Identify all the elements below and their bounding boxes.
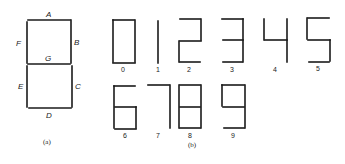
digit-1: 1 — [156, 21, 160, 73]
label-c: C — [75, 82, 81, 91]
digit-8: 8 — [179, 85, 201, 139]
digit-label-9: 9 — [231, 132, 235, 139]
label-e: E — [18, 82, 24, 91]
panel-b-digits: 0 1 2 3 4 — [113, 18, 330, 149]
digit-5: 5 — [307, 18, 330, 72]
digit-4: 4 — [264, 19, 287, 73]
seven-segment-figure: A F B G E C D (a) 0 1 2 — [0, 0, 345, 164]
label-d: D — [46, 111, 52, 120]
digit-label-5: 5 — [316, 65, 320, 72]
label-b: B — [74, 38, 80, 47]
digit-label-4: 4 — [273, 66, 277, 73]
digit-label-6: 6 — [123, 132, 127, 139]
label-g: G — [45, 54, 51, 63]
label-f: F — [16, 39, 22, 48]
digit-label-1: 1 — [156, 66, 160, 73]
digit-label-7: 7 — [156, 132, 160, 139]
digit-7: 7 — [148, 85, 170, 139]
digit-label-3: 3 — [230, 66, 234, 73]
digit-label-0: 0 — [121, 66, 125, 73]
digit-label-2: 2 — [187, 66, 191, 73]
panel-a-seven-segment-diagram: A F B G E C D (a) — [16, 10, 81, 146]
digit-6: 6 — [114, 86, 136, 139]
digit-2: 2 — [179, 19, 201, 73]
label-a: A — [45, 10, 51, 19]
digit-label-8: 8 — [188, 132, 192, 139]
digit-9: 9 — [222, 85, 245, 139]
digit-3: 3 — [222, 19, 243, 73]
digit-0: 0 — [113, 20, 135, 73]
caption-b: (b) — [188, 141, 197, 149]
caption-a: (a) — [43, 138, 51, 146]
